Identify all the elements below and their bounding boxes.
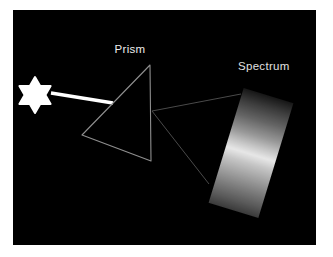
prism-label: Prism [108, 43, 152, 55]
spectrum-label: Spectrum [238, 60, 290, 72]
figure-page: Prism Spectrum [0, 0, 333, 257]
